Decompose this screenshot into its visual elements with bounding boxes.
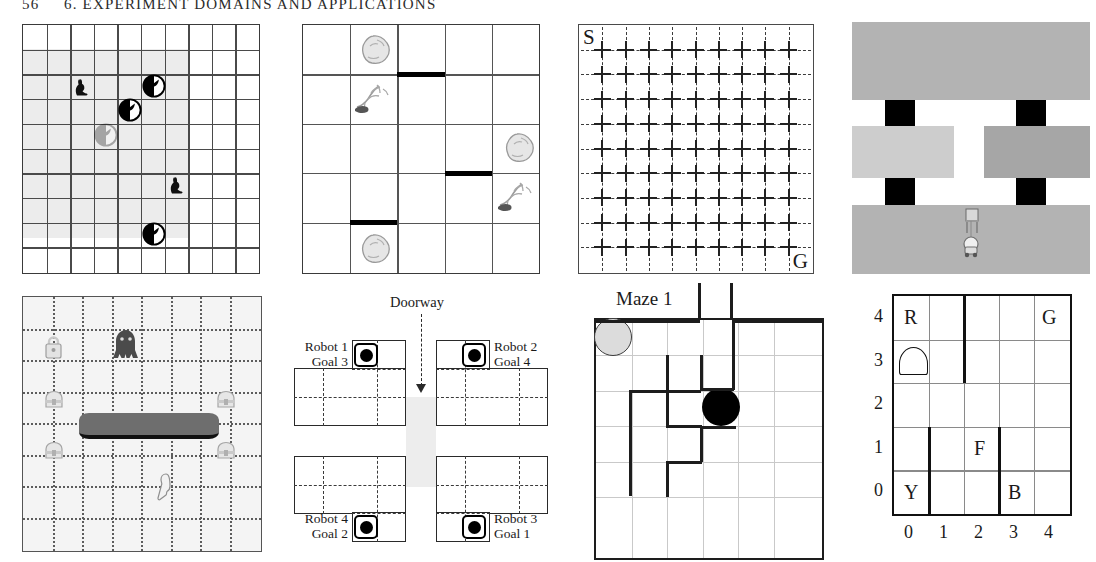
cross-mark: [601, 115, 603, 132]
y-axis-tick: 0: [874, 480, 883, 501]
grid-line-h: [23, 486, 261, 488]
maze-goal-marker: [702, 388, 740, 426]
doorway-bottom-right: [1016, 178, 1046, 205]
cross-mark: [601, 140, 603, 157]
cross-mark: [788, 140, 790, 157]
taxi-wall: [928, 427, 931, 514]
cross-mark: [695, 115, 697, 132]
page-number: 56: [22, 0, 64, 12]
robot-2-goal: Goal 4: [494, 355, 537, 370]
corridor-vertical: [406, 397, 436, 487]
doorway-bottom-left: [885, 178, 915, 205]
cross-mark: [741, 140, 743, 157]
cross-mark: [648, 66, 650, 83]
cross-mark: [718, 189, 720, 206]
maze-grid-h: [596, 355, 822, 356]
cross-mark: [764, 91, 766, 108]
landmark-R: R: [904, 307, 917, 327]
panel-four-robots: Doorway Robot 1 Goal 3 Robot 2 Goal 4 Ro…: [278, 292, 570, 560]
cross-mark: [741, 239, 743, 256]
cross-mark: [695, 66, 697, 83]
robot-4-name: Robot 4: [280, 512, 348, 527]
robot-1-name: Robot 1: [280, 340, 348, 355]
room-middle-left: [852, 126, 954, 178]
cross-mark: [625, 140, 627, 157]
wolf-head-icon: [142, 74, 166, 102]
cross-mark: [601, 41, 603, 58]
robot-3-caption: Robot 3 Goal 1: [494, 512, 537, 541]
panel-maze: Maze 1: [594, 288, 824, 560]
tree-icon: [496, 177, 538, 221]
cross-mark: [625, 115, 627, 132]
cross-mark: [718, 239, 720, 256]
chest-icon: [43, 389, 65, 415]
x-axis-tick: 2: [974, 522, 983, 543]
doorway-arrow-head: [416, 384, 426, 393]
wolf-head-icon: [142, 222, 166, 250]
cross-mark: [788, 66, 790, 83]
cross-mark: [671, 115, 673, 132]
cross-mark: [695, 189, 697, 206]
cross-mark: [671, 41, 673, 58]
maze-board: [594, 318, 824, 560]
cross-mark: [741, 165, 743, 182]
cross-mark: [695, 165, 697, 182]
cross-mark: [741, 91, 743, 108]
robot-3-name: Robot 3: [494, 512, 537, 527]
key-icon: [155, 472, 175, 506]
cross-mark: [601, 66, 603, 83]
robot-2-name: Robot 2: [494, 340, 537, 355]
cross-mark: [648, 189, 650, 206]
cross-mark: [625, 189, 627, 206]
cross-mark: [695, 91, 697, 108]
dotted-game-board: [22, 296, 262, 552]
cross-mark: [718, 115, 720, 132]
cross-mark: [648, 214, 650, 231]
cross-mark: [671, 189, 673, 206]
taxi-wall: [998, 427, 1001, 514]
panel-taxi: R G F Y B 0123443210: [866, 294, 1090, 560]
cross-mark: [648, 91, 650, 108]
robot-4-goal: Goal 2: [280, 527, 348, 542]
y-axis-tick: 3: [874, 350, 883, 371]
cross-mark: [671, 66, 673, 83]
cross-mark: [788, 91, 790, 108]
predator-prey-board: [22, 24, 260, 274]
cross-mark: [671, 165, 673, 182]
robot-icon: [958, 207, 984, 263]
cross-mark: [741, 214, 743, 231]
log-obstacle-icon: [79, 413, 219, 439]
landmark-F: F: [974, 438, 985, 458]
panel-predator-prey: [22, 24, 260, 274]
rock-icon: [357, 229, 393, 271]
cross-mark: [625, 41, 627, 58]
landmark-G: G: [1042, 307, 1056, 327]
robot-1-goal: Goal 3: [280, 355, 348, 370]
panel-rooms-corridor: [852, 22, 1090, 274]
rock-icon: [357, 30, 393, 72]
cross-mark: [741, 41, 743, 58]
doorway-label: Doorway: [390, 294, 444, 311]
x-axis-tick: 3: [1009, 522, 1018, 543]
room-middle-right: [984, 126, 1090, 178]
maze-grid-h: [596, 497, 822, 498]
rabbit-icon: [73, 78, 91, 102]
taxi-board: R G F Y B: [892, 294, 1072, 516]
y-axis-tick: 4: [874, 306, 883, 327]
rabbit-icon: [168, 176, 186, 200]
robot-2-marker: [462, 343, 486, 367]
taxi-wall: [963, 296, 966, 383]
cross-mark: [695, 140, 697, 157]
cross-mark: [671, 214, 673, 231]
robot-1-caption: Robot 1 Goal 3: [280, 340, 348, 369]
panel-rocks-trees: [302, 24, 540, 274]
cross-mark: [718, 91, 720, 108]
chest-icon: [215, 389, 237, 415]
cross-mark: [788, 239, 790, 256]
robot-4-marker: [354, 515, 378, 539]
cross-mark: [741, 189, 743, 206]
robot-3-marker: [462, 515, 486, 539]
cross-mark: [601, 91, 603, 108]
robot-3-goal: Goal 1: [494, 527, 537, 542]
cross-mark: [648, 239, 650, 256]
